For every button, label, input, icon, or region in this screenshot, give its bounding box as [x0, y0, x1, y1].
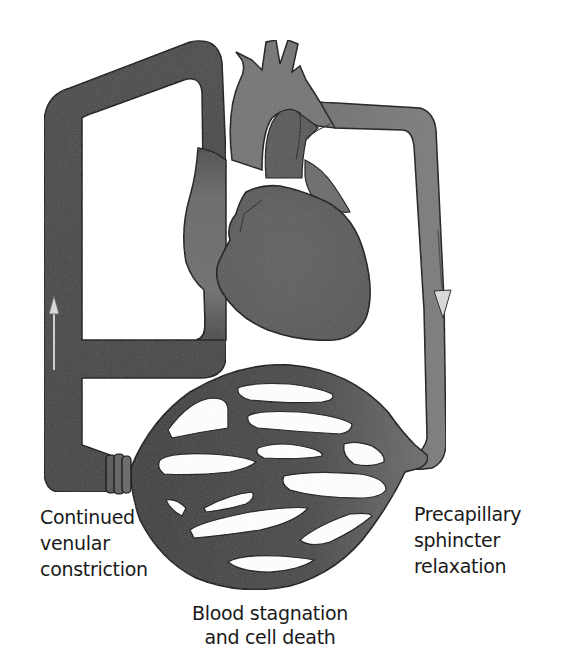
constriction-rings-icon: [106, 454, 131, 494]
label-blood-stagnation-cell-death: Blood stagnation and cell death: [170, 601, 370, 649]
label-line: venular: [40, 530, 148, 556]
label-continued-venular-constriction: Continued venular constriction: [40, 504, 148, 582]
capillary-bed: [130, 365, 428, 590]
right-atrium: [184, 148, 226, 340]
label-line: sphincter: [414, 527, 521, 553]
label-line: Continued: [40, 504, 148, 530]
label-line: Precapillary: [414, 501, 521, 527]
label-line: and cell death: [170, 625, 370, 649]
label-precapillary-sphincter-relaxation: Precapillary sphincter relaxation: [414, 501, 521, 579]
label-line: relaxation: [414, 553, 521, 579]
label-line: constriction: [40, 556, 148, 582]
label-line: Blood stagnation: [170, 601, 370, 625]
